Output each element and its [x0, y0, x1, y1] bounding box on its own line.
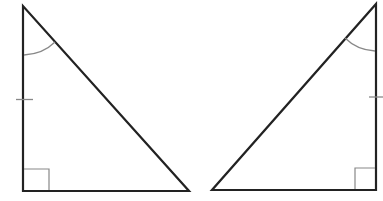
- right-angle-marker-icon: [24, 169, 49, 190]
- triangle-right: [212, 4, 383, 190]
- triangle-left: [16, 6, 189, 191]
- triangle-right-outline: [212, 4, 376, 190]
- triangle-left-outline: [23, 6, 189, 191]
- angle-arc-icon: [24, 42, 55, 55]
- angle-arc-icon: [345, 38, 375, 51]
- diagram-canvas: [0, 0, 383, 201]
- right-angle-marker-icon: [355, 168, 375, 189]
